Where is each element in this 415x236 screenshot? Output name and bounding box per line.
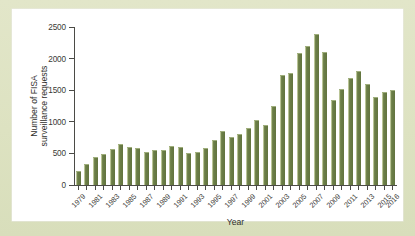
x-axis-tick-label: 2009	[324, 192, 342, 210]
bar	[305, 46, 310, 185]
x-axis-tick	[214, 186, 215, 191]
x-axis-tick	[239, 186, 240, 191]
x-axis-tick-label: 1995	[205, 192, 223, 210]
x-axis-tick-label: 1993	[188, 192, 206, 210]
x-axis-tick	[137, 186, 138, 191]
bar	[76, 171, 81, 185]
bar	[390, 90, 395, 185]
x-axis-tick-label: 1987	[137, 192, 155, 210]
x-axis-tick	[290, 186, 291, 191]
x-axis-tick-label: 1989	[154, 192, 172, 210]
plot-area	[74, 27, 397, 185]
y-axis-tick-label: 1500	[48, 86, 69, 95]
x-axis-tick	[392, 186, 393, 191]
bar	[110, 149, 115, 185]
x-axis-tick	[375, 186, 376, 191]
x-axis-tick-label: 1999	[239, 192, 257, 210]
x-axis-tick	[188, 186, 189, 191]
bar	[144, 152, 149, 185]
bar	[382, 92, 387, 185]
bar	[339, 89, 344, 185]
chart-panel: Number of FISA surveillance requests 050…	[12, 9, 403, 221]
bar	[212, 140, 217, 185]
x-axis-title: Year	[74, 217, 397, 227]
bar	[229, 137, 234, 185]
x-axis-tick	[95, 186, 96, 191]
x-axis-tick	[120, 186, 121, 191]
x-axis-tick	[154, 186, 155, 191]
x-axis-tick	[256, 186, 257, 191]
x-axis-tick	[273, 186, 274, 191]
x-axis-tick-label: 2007	[307, 192, 325, 210]
bar	[118, 144, 123, 185]
x-axis-tick-label: 2005	[290, 192, 308, 210]
bar	[178, 147, 183, 185]
x-axis-tick	[307, 186, 308, 191]
x-axis-tick	[205, 186, 206, 191]
y-axis-title-line1: Number of FISA	[29, 66, 40, 147]
x-axis-tick	[163, 186, 164, 191]
x-axis-tick	[78, 186, 79, 191]
x-axis-tick-label: 2013	[358, 192, 376, 210]
x-axis-tick-label: 1981	[86, 192, 104, 210]
bar	[280, 75, 285, 185]
x-axis-tick	[248, 186, 249, 191]
x-axis-tick-label: 1983	[103, 192, 121, 210]
bar	[314, 34, 319, 185]
x-axis-tick	[367, 186, 368, 191]
x-axis-tick	[265, 186, 266, 191]
bar	[322, 52, 327, 185]
bar	[297, 53, 302, 185]
x-axis-tick	[86, 186, 87, 191]
x-axis-tick	[197, 186, 198, 191]
x-axis-tick	[299, 186, 300, 191]
x-axis-tick	[171, 186, 172, 191]
x-axis-tick	[112, 186, 113, 191]
x-axis-tick	[316, 186, 317, 191]
y-axis-title: Number of FISA surveillance requests	[31, 27, 47, 185]
bar	[246, 128, 251, 185]
x-axis-tick-label: 2011	[342, 192, 359, 209]
bar	[93, 157, 98, 185]
bar	[161, 150, 166, 186]
y-axis-title-line2: surveillance requests	[39, 66, 50, 147]
bar	[135, 148, 140, 185]
x-axis-tick	[129, 186, 130, 191]
x-axis-tick	[384, 186, 385, 191]
y-axis-tick-label: 1000	[48, 117, 69, 126]
y-axis-tick-label: 2500	[48, 23, 69, 32]
bar	[169, 146, 174, 185]
bar	[152, 150, 157, 185]
bar	[356, 71, 361, 185]
figure-container: Number of FISA surveillance requests 050…	[0, 0, 415, 236]
x-axis-tick-label: 1985	[120, 192, 138, 210]
bar	[84, 164, 89, 185]
x-axis-tick	[103, 186, 104, 191]
x-axis-tick-label: 2003	[273, 192, 291, 210]
x-axis-tick-label: 1997	[222, 192, 240, 210]
x-axis-tick	[333, 186, 334, 191]
bar	[195, 152, 200, 185]
bar	[365, 84, 370, 185]
bar	[127, 147, 132, 185]
bar	[263, 125, 268, 185]
x-axis-tick-label: 2001	[256, 192, 274, 210]
bar	[348, 78, 353, 185]
y-axis-tick-label: 0	[62, 181, 69, 190]
bar	[186, 153, 191, 185]
x-axis-tick	[358, 186, 359, 191]
bar	[220, 131, 225, 185]
bar	[101, 154, 106, 185]
bar	[288, 73, 293, 185]
bar	[271, 106, 276, 185]
x-axis-tick	[180, 186, 181, 191]
bar	[254, 120, 259, 185]
x-axis-tick	[146, 186, 147, 191]
bar	[331, 100, 336, 185]
bar	[373, 97, 378, 185]
x-axis-tick	[222, 186, 223, 191]
x-axis-tick	[282, 186, 283, 191]
x-axis-tick	[350, 186, 351, 191]
x-axis-tick	[341, 186, 342, 191]
y-axis-tick-label: 2000	[48, 54, 69, 63]
